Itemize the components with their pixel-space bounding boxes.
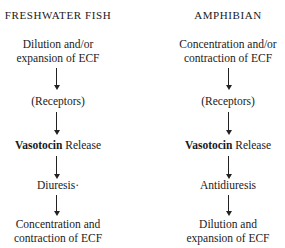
result-node: Dilution and expansion of ECF [144, 217, 285, 245]
down-arrow-icon [56, 156, 57, 175]
freshwater-fish-column: FRESHWATER FISH Dilution and/or expansio… [0, 0, 142, 248]
stimulus-line-2: expansion of ECF [0, 51, 142, 65]
hormone-suffix: Release [235, 139, 271, 151]
hormone-name: Vasotocin [15, 139, 63, 151]
column-header: FRESHWATER FISH [0, 8, 142, 22]
result-node: Concentration and contraction of ECF [0, 217, 142, 245]
result-line-1: Dilution and [144, 217, 285, 231]
stimulus-node: Concentration and/or contraction of ECF [144, 37, 285, 65]
stimulus-node: Dilution and/or expansion of ECF [0, 37, 142, 65]
down-arrow-icon [228, 195, 229, 212]
hormone-name: Vasotocin [185, 139, 233, 151]
stimulus-line-1: Dilution and/or [0, 37, 142, 51]
effect-node: Diuresis· [0, 178, 142, 192]
result-line-2: expansion of ECF [144, 231, 285, 245]
receptors-node: (Receptors) [0, 94, 142, 108]
down-arrow-icon [56, 112, 57, 131]
down-arrow-icon [228, 156, 229, 175]
down-arrow-icon [228, 112, 229, 131]
receptors-node: (Receptors) [144, 94, 285, 108]
hormone-release-node: Vasotocin Release [144, 138, 285, 152]
hormone-suffix: Release [65, 139, 101, 151]
down-arrow-icon [56, 68, 57, 86]
hormone-release-node: Vasotocin Release [0, 138, 142, 152]
amphibian-column: AMPHIBIAN Concentration and/or contracti… [142, 0, 285, 248]
down-arrow-icon [56, 195, 57, 212]
down-arrow-icon [228, 68, 229, 86]
column-header: AMPHIBIAN [144, 8, 285, 22]
stimulus-line-2: contraction of ECF [144, 51, 285, 65]
result-line-2: contraction of ECF [0, 231, 142, 245]
result-line-1: Concentration and [0, 217, 142, 231]
effect-node: Antidiuresis [144, 178, 285, 192]
stimulus-line-1: Concentration and/or [144, 37, 285, 51]
